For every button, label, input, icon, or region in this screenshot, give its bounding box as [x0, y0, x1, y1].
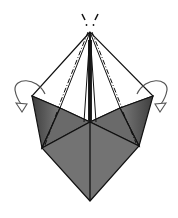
apex-marks-icon	[82, 14, 98, 26]
origami-figure	[0, 0, 178, 218]
origami-diagram: origami-fold-step	[0, 0, 178, 218]
